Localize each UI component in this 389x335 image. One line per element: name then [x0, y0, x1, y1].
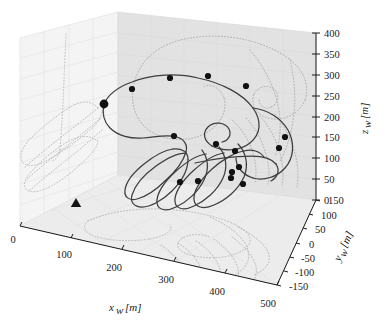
waypoint-marker	[205, 73, 211, 79]
waypoint-marker	[167, 75, 173, 81]
z-tick-label-200: 200	[324, 112, 340, 123]
waypoint-marker-start	[100, 100, 109, 109]
z-tick-label-300: 300	[324, 70, 340, 81]
z-axis-title-unit: [m]	[358, 102, 370, 119]
waypoint-marker	[243, 83, 249, 89]
y-tick-label-150: 150	[328, 195, 344, 206]
x-axis-title-unit: [m]	[125, 301, 142, 313]
x-tick-label-500: 500	[260, 298, 276, 309]
waypoint-marker	[171, 133, 177, 139]
waypoint-marker	[236, 164, 242, 170]
panel-back	[118, 12, 316, 200]
waypoint-marker	[240, 181, 246, 187]
z-tick-label-0: 0	[324, 195, 329, 206]
waypoint-marker	[213, 141, 219, 147]
z-tick-label-100: 100	[324, 153, 340, 164]
waypoint-marker	[228, 175, 234, 181]
x-tick-label-300: 300	[158, 274, 174, 285]
waypoint-marker	[229, 169, 235, 175]
z-tick-label-350: 350	[324, 49, 340, 60]
y-tick-label--100: -100	[295, 267, 314, 278]
waypoint-marker	[195, 178, 201, 184]
y-axis-title: y w [m]	[331, 229, 358, 265]
waypoint-marker	[276, 145, 282, 151]
y-tick-label--50: -50	[301, 253, 315, 264]
z-tick-label-150: 150	[324, 132, 340, 143]
waypoint-marker	[177, 179, 183, 185]
x-tick-label-400: 400	[209, 286, 225, 297]
y-tick-label-100: 100	[321, 210, 337, 221]
x-axis-title: x w [m]	[108, 301, 142, 316]
x-tick-label-0: 0	[10, 234, 15, 245]
y-axis-title-unit: [m]	[337, 229, 355, 249]
z-axis-title-symbol: z	[358, 129, 370, 135]
waypoint-marker	[232, 148, 238, 154]
x-axis-title-subscript: w	[116, 304, 124, 316]
z-tick-label-50: 50	[324, 174, 335, 185]
plot-svg: 0 100 200 300 400 500 x w [m] 150 100 50…	[0, 0, 389, 335]
x-tick-label-200: 200	[106, 262, 122, 273]
z-tick-label-400: 400	[324, 28, 340, 39]
x-axis-title-symbol: x	[108, 301, 114, 313]
y-tick-label-0: 0	[309, 239, 314, 250]
y-tick-label-50: 50	[315, 224, 326, 235]
z-axis-title: z w [m]	[358, 102, 373, 135]
figure-3d-trajectory-plot: 0 100 200 300 400 500 x w [m] 150 100 50…	[0, 0, 389, 335]
y-tick-label--150: -150	[289, 281, 308, 292]
z-axis-title-subscript: w	[361, 120, 373, 128]
z-axis: 0 50 100 150 200 250 300 350 400 z w [m]	[312, 28, 373, 206]
waypoint-marker-end	[282, 134, 288, 140]
waypoint-marker	[129, 86, 135, 92]
x-tick-label-100: 100	[56, 249, 72, 260]
z-tick-label-250: 250	[324, 91, 340, 102]
